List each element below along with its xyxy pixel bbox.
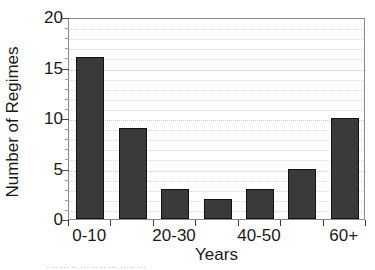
x-axis-tick-mark [365,220,366,226]
y-axis-tick-label: 0 [22,211,63,228]
y-axis-tick-mark [62,170,69,171]
y-axis-minor-tick-mark [65,200,69,201]
gridline [69,130,364,131]
y-axis-minor-tick-mark [65,28,69,29]
y-axis-minor-tick-mark [65,210,69,211]
gridline [69,29,364,30]
y-axis-tick-mark [62,119,69,120]
y-axis-tick-label: 10 [22,110,63,127]
y-axis-tick-mark [62,18,69,19]
x-axis-tick-mark [110,220,111,226]
y-axis-minor-tick-mark [65,109,69,110]
y-axis-tick-label: 5 [22,161,63,178]
gridline [69,150,364,151]
y-axis-tick-labels: 20151050 [22,0,63,270]
gridline [69,59,364,60]
bar [119,128,147,219]
x-axis-tick-label: 60+ [329,226,358,245]
y-axis-minor-tick-mark [65,180,69,181]
y-axis-minor-tick-mark [65,149,69,150]
y-axis-minor-tick-mark [65,159,69,160]
x-axis-title: Years [68,245,365,264]
gridline [69,49,364,50]
y-axis-minor-tick-mark [65,129,69,130]
y-axis-minor-tick-mark [65,79,69,80]
x-axis-tick-label: 40-50 [237,226,280,245]
bar [161,189,189,219]
y-axis-minor-tick-mark [65,38,69,39]
bar [204,199,232,219]
gridline [69,100,364,101]
x-axis-tick-label: 20-30 [152,226,195,245]
y-axis-tick-mark [62,69,69,70]
gridline [69,90,364,91]
y-axis-tick-label: 20 [22,9,63,26]
y-axis-title: Number of Regimes [2,4,24,240]
gridline [69,140,364,141]
gridline [69,171,364,172]
bar-chart-figure: Number of Regimes 20151050 Years · ·· ··… [0,0,375,270]
y-axis-minor-tick-mark [65,89,69,90]
y-axis-tick-label: 15 [22,60,63,77]
gridline [69,39,364,40]
plot-inner [69,19,364,219]
clipped-caption-remnant: · ·· ··· ·· ··· ·· ·· ··· ·· ·· ··· [46,263,276,270]
x-axis-tick-mark [323,220,324,226]
gridline [69,110,364,111]
x-axis-tick-mark [68,220,69,226]
y-axis-minor-tick-mark [65,48,69,49]
x-axis-tick-label: 0-10 [72,226,106,245]
y-axis-minor-tick-mark [65,58,69,59]
bar [246,189,274,219]
y-axis-minor-tick-mark [65,190,69,191]
bar [331,118,359,219]
gridline [69,191,364,192]
bar [288,169,316,220]
bar [76,57,104,219]
gridline [69,181,364,182]
y-axis-minor-tick-mark [65,99,69,100]
gridline [69,80,364,81]
plot-area [68,18,365,220]
gridline [69,160,364,161]
gridline [69,120,364,121]
y-axis-minor-tick-mark [65,139,69,140]
gridline [69,70,364,71]
